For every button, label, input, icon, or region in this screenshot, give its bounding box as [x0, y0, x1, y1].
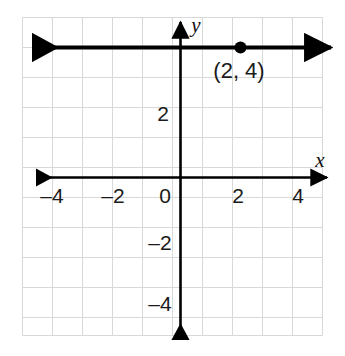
coordinate-plane-figure: –4 –2 0 2 4 2 –2 –4 y x (2, 4): [0, 0, 345, 356]
point-coordinate-label: (2, 4): [213, 58, 264, 84]
y-axis-label: y: [191, 13, 200, 38]
y-tick-label-2: 2: [157, 102, 169, 126]
graph-canvas: [0, 0, 345, 356]
x-tick-label-2: 2: [232, 184, 244, 208]
x-axis-label: x: [315, 148, 324, 173]
y-tick-label-neg2: –2: [148, 231, 171, 255]
x-tick-label-4: 4: [292, 184, 304, 208]
x-tick-label-neg2: –2: [101, 184, 124, 208]
y-tick-label-neg4: –4: [148, 292, 171, 316]
x-tick-label-zero: 0: [159, 184, 171, 208]
x-tick-label-neg4: –4: [40, 184, 63, 208]
plotted-point: [235, 42, 247, 54]
